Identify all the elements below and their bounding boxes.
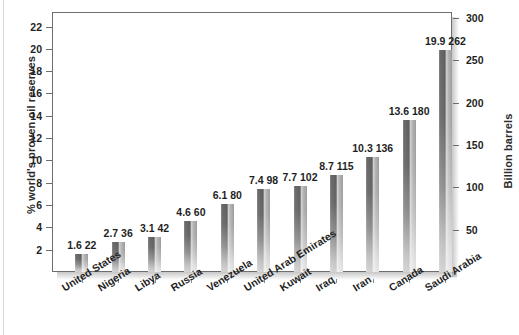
bar-value-label: 7.7 102 bbox=[270, 172, 330, 183]
bar bbox=[148, 237, 161, 272]
bar bbox=[330, 175, 343, 272]
bar-value-label: 8.7 115 bbox=[306, 161, 366, 172]
bar-value-label: 19.9 262 bbox=[415, 36, 475, 47]
bar bbox=[439, 50, 452, 272]
bar-value-label: 6.1 80 bbox=[197, 190, 257, 201]
bar bbox=[184, 221, 197, 272]
bar bbox=[257, 189, 270, 272]
bar bbox=[221, 204, 234, 272]
bar bbox=[403, 120, 416, 272]
bar-value-label: 13.6 180 bbox=[379, 106, 439, 117]
x-tick-mark bbox=[336, 279, 337, 283]
bar-chart-figure: % world's proven oil reserves Billion ba… bbox=[0, 0, 519, 335]
bar-value-label: 3.1 42 bbox=[125, 223, 185, 234]
bar bbox=[366, 157, 379, 272]
bar-value-label: 4.6 60 bbox=[161, 207, 221, 218]
bar-value-label: 1.6 22 bbox=[52, 240, 112, 251]
bar-value-label: 10.3 136 bbox=[343, 143, 403, 154]
